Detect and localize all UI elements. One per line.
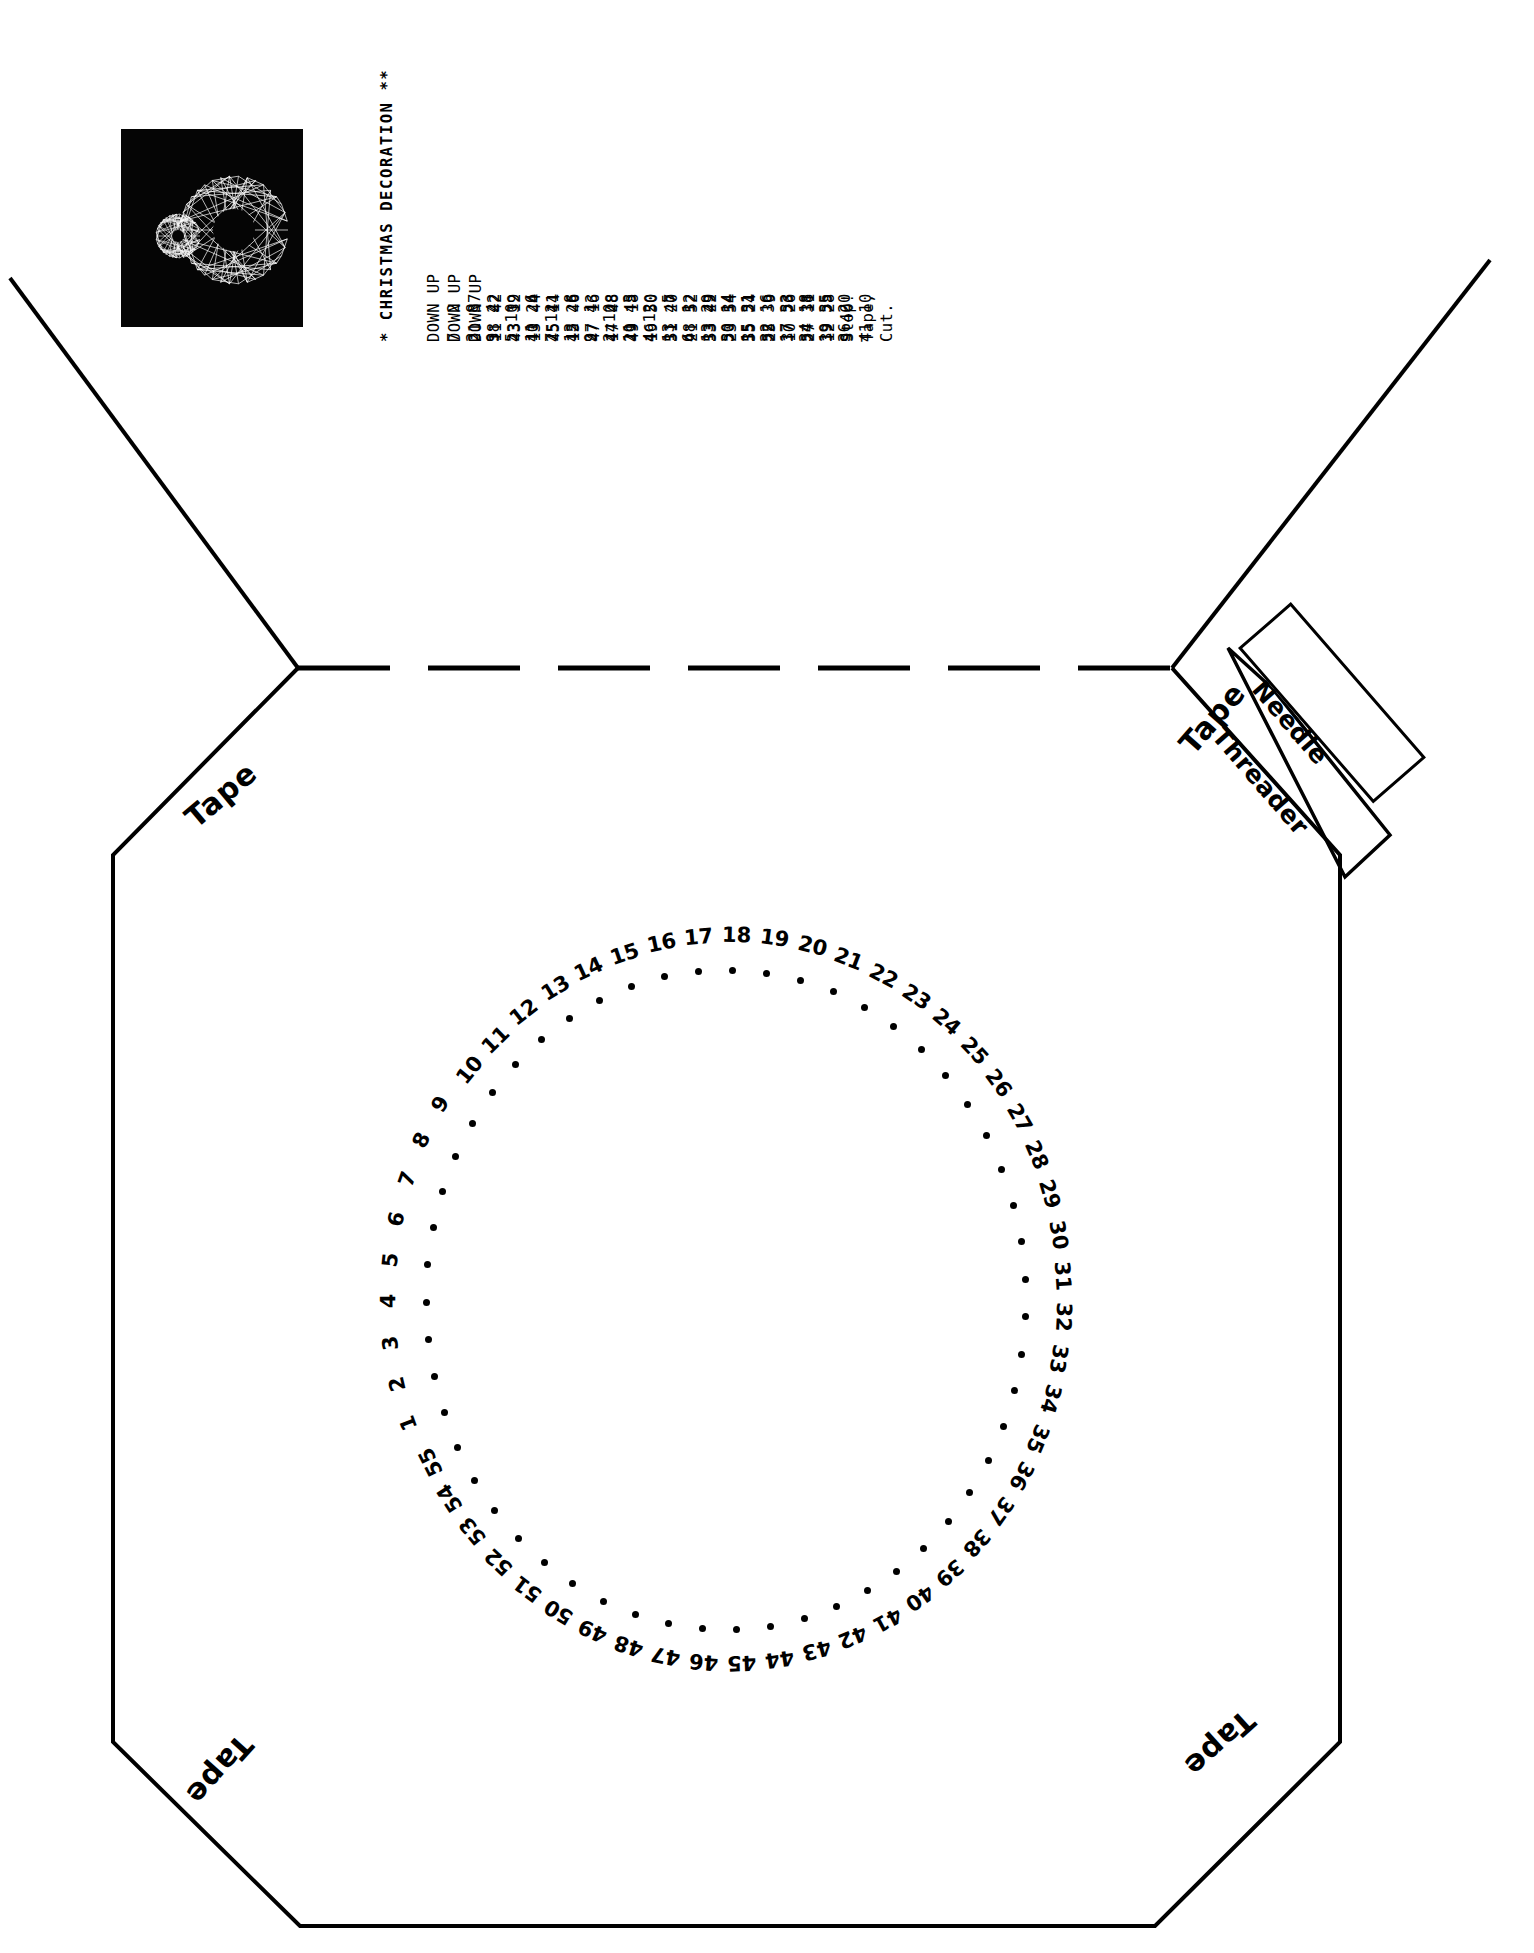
ring-hole-number: 14 [571,952,608,986]
ring-hole-number: 17 [683,923,714,950]
ring-hole-dot [489,1089,496,1096]
ring-hole-number: 2 [384,1374,411,1394]
ring-hole-number: 4 [376,1294,400,1309]
ring-hole-dot [425,1336,432,1343]
ring-hole-dot [439,1188,446,1195]
ring-hole-number: 20 [795,931,829,962]
ring-hole-number: 10 [451,1051,488,1089]
ring-hole-number: 27 [1002,1099,1037,1136]
ring-hole-dot [1018,1238,1025,1245]
ring-hole-dot [538,1036,545,1043]
ring-hole-number: 42 [835,1621,871,1654]
ring-hole-number: 43 [799,1635,833,1666]
ring-hole-number: 26 [980,1064,1017,1102]
ring-hole-dot [893,1568,900,1575]
ring-hole-dot [471,1477,478,1484]
ring-hole-number: 5 [378,1251,403,1268]
ring-hole-number: 30 [1044,1218,1073,1251]
ring-hole-number: 12 [505,994,543,1031]
ring-hole-number: 1 [395,1413,423,1435]
ring-hole-dot [1018,1351,1025,1358]
ring-hole-dot [469,1120,476,1127]
ring-hole-number: 6 [383,1209,410,1229]
ring-hole-dot [661,973,668,980]
ring-hole-number: 40 [901,1580,939,1616]
ring-hole-dot [566,1015,573,1022]
ring-hole-number: 35 [1021,1420,1054,1456]
ring-hole-number: 52 [479,1543,517,1581]
ring-hole-number: 23 [898,979,936,1015]
ring-hole-number: 41 [869,1602,906,1637]
ring-hole-dot [964,1101,971,1108]
ring-hole-dot [699,1625,706,1632]
ring-hole-number: 33 [1045,1342,1073,1375]
ring-hole-dot [628,983,635,990]
ring-hole-dot [569,1580,576,1587]
ring-hole-dot [861,1004,868,1011]
ring-hole-number: 13 [537,971,574,1007]
ring-hole-number: 7 [393,1168,420,1190]
numbered-hole-ring: 1234567891011121314151617181920212223242… [0,0,1534,1953]
ring-hole-number: 55 [414,1443,449,1480]
ring-hole-dot [512,1061,519,1068]
ring-hole-dot [454,1444,461,1451]
ring-hole-number: 50 [540,1594,577,1630]
ring-hole-number: 3 [378,1334,404,1351]
ring-hole-number: 31 [1050,1261,1076,1292]
ring-hole-number: 15 [607,938,642,970]
ring-hole-number: 34 [1035,1382,1066,1417]
ring-hole-dot [833,1603,840,1610]
ring-hole-dot [596,997,603,1004]
ring-hole-dot [890,1023,897,1030]
ring-hole-number: 25 [956,1032,993,1070]
ring-hole-number: 18 [722,923,752,948]
ring-hole-dot [1011,1387,1018,1394]
ring-hole-dot [431,1373,438,1380]
ring-hole-number: 44 [763,1645,795,1673]
ring-hole-number: 37 [983,1492,1020,1530]
ring-hole-dot [918,1046,925,1053]
ring-hole-number: 8 [408,1129,436,1153]
ring-hole-dot [767,1623,774,1630]
ring-hole-dot [998,1166,1005,1173]
ring-hole-dot [491,1507,498,1514]
ring-hole-number: 29 [1034,1177,1065,1212]
ring-hole-dot [515,1535,522,1542]
ring-hole-dot [763,970,770,977]
ring-hole-number: 28 [1020,1137,1054,1173]
ring-hole-dot [983,1132,990,1139]
ring-hole-dot [600,1598,607,1605]
ring-hole-dot [452,1153,459,1160]
ring-hole-number: 11 [476,1021,514,1059]
ring-hole-dot [423,1299,430,1306]
ring-hole-dot [1000,1423,1007,1430]
ring-hole-number: 24 [928,1004,966,1041]
ring-hole-dot [1022,1313,1029,1320]
ring-hole-number: 32 [1050,1302,1075,1332]
ring-hole-number: 22 [865,959,902,994]
ring-hole-dot [733,1626,740,1633]
ring-hole-number: 49 [575,1614,612,1648]
ring-hole-number: 45 [726,1650,756,1675]
ring-hole-dot [797,977,804,984]
ring-hole-dot [945,1518,952,1525]
ring-hole-dot [430,1224,437,1231]
ring-hole-number: 38 [958,1525,995,1563]
ring-hole-dot [942,1072,949,1079]
ring-hole-dot [864,1587,871,1594]
ring-hole-dot [985,1457,992,1464]
ring-hole-number: 36 [1004,1457,1039,1494]
ring-hole-dot [801,1615,808,1622]
ring-hole-dot [729,967,736,974]
ring-hole-number: 47 [649,1642,682,1671]
ring-hole-dot [665,1620,672,1627]
ring-hole-dot [966,1489,973,1496]
ring-hole-number: 48 [611,1630,646,1662]
ring-hole-number: 46 [688,1649,719,1675]
ring-hole-dot [830,988,837,995]
ring-hole-dot [424,1261,431,1268]
ring-hole-number: 51 [508,1570,546,1607]
ring-hole-number: 54 [432,1479,468,1517]
ring-hole-number: 16 [644,928,678,957]
ring-hole-number: 53 [454,1512,491,1550]
